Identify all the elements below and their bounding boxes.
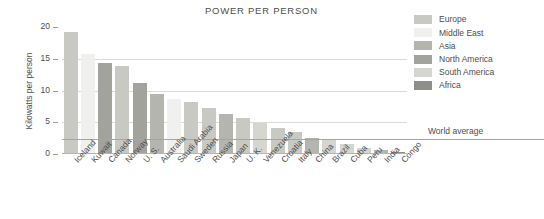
y-tick-label: 20	[28, 21, 50, 31]
plot-area	[62, 27, 407, 154]
legend: EuropeMiddle EastAsiaNorth AmericaSouth …	[414, 13, 494, 92]
power-per-person-chart: POWER PER PERSON Kilowatts per person 05…	[0, 0, 544, 219]
legend-label: Africa	[439, 81, 461, 90]
legend-swatch-icon	[414, 68, 432, 77]
world-average-label: World average	[428, 126, 483, 136]
legend-label: North America	[439, 55, 493, 64]
y-tick-label: 10	[28, 85, 50, 95]
bar	[64, 32, 78, 154]
legend-item: Europe	[414, 13, 494, 26]
gridline	[62, 122, 407, 123]
legend-swatch-icon	[414, 28, 432, 37]
legend-label: Europe	[439, 15, 466, 24]
legend-item: Africa	[414, 79, 494, 92]
legend-item: South America	[414, 66, 494, 79]
legend-swatch-icon	[414, 41, 432, 50]
legend-item: Asia	[414, 39, 494, 52]
y-tick-mark	[53, 154, 58, 155]
y-tick-mark	[53, 91, 58, 92]
legend-swatch-icon	[414, 15, 432, 24]
y-tick-mark	[53, 27, 58, 28]
y-tick-label: 15	[28, 53, 50, 63]
legend-swatch-icon	[414, 81, 432, 90]
legend-label: Middle East	[439, 29, 483, 38]
y-tick-mark	[53, 122, 58, 123]
legend-item: Middle East	[414, 26, 494, 39]
y-tick-label: 0	[28, 148, 50, 158]
legend-label: Asia	[439, 42, 456, 51]
legend-item: North America	[414, 53, 494, 66]
legend-label: South America	[439, 68, 494, 77]
y-tick-mark	[53, 59, 58, 60]
chart-title: POWER PER PERSON	[205, 5, 318, 16]
world-average-line	[62, 139, 544, 140]
legend-swatch-icon	[414, 55, 432, 64]
gridline	[62, 59, 407, 60]
gridline	[62, 91, 407, 92]
y-tick-label: 5	[28, 116, 50, 126]
